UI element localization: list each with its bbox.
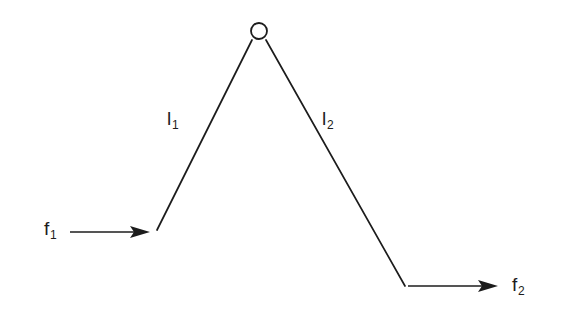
link-l2-label: l2 [322,109,333,128]
apex-joint-circle [251,23,267,39]
link-l1-label-base: l [167,108,171,129]
output-force-label-subscript: 2 [518,284,525,298]
output-force-label-base: f [512,274,517,295]
output-force-arrow [408,280,498,292]
input-force-label: f1 [44,219,56,238]
input-force-arrow [70,226,150,238]
input-force-label-subscript: 1 [50,228,57,242]
link-l1-label: l1 [167,109,178,128]
diagram-canvas [0,0,565,316]
link-l2-label-subscript: 2 [327,118,334,132]
input-force-label-base: f [44,218,49,239]
force-diagram-figure: f1 l1 l2 f2 [0,0,565,316]
link-l2-label-base: l [322,108,326,129]
link-l1-label-subscript: 1 [172,118,179,132]
link-segment-l1 [157,40,252,230]
output-force-label: f2 [512,275,524,294]
link-segment-l2 [266,40,405,286]
